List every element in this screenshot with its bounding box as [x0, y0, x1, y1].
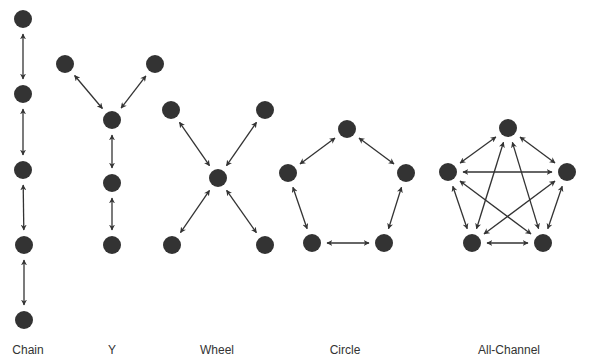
network-node — [499, 119, 517, 137]
network-node — [558, 163, 576, 181]
network-node — [303, 234, 321, 252]
network-node — [14, 161, 32, 179]
network-node — [103, 174, 121, 192]
all-channel-network — [439, 119, 576, 252]
two-way-arrow — [23, 185, 24, 230]
network-node — [103, 236, 121, 254]
two-way-arrow — [477, 142, 504, 228]
two-way-arrow — [293, 187, 307, 229]
chain-network — [14, 10, 33, 329]
network-node — [256, 101, 274, 119]
network-node — [279, 164, 297, 182]
network-node — [146, 55, 164, 73]
chain-label: Chain — [12, 343, 43, 357]
network-node — [534, 234, 552, 252]
two-way-arrow — [548, 186, 562, 229]
y-network — [56, 55, 164, 254]
network-node — [463, 234, 481, 252]
wheel-network — [162, 101, 274, 254]
two-way-arrow — [227, 122, 257, 165]
network-node — [338, 120, 356, 138]
circle-label: Circle — [330, 343, 361, 357]
two-way-arrow — [300, 138, 335, 164]
two-way-arrow — [389, 187, 402, 228]
network-node — [256, 236, 274, 254]
y-label: Y — [108, 343, 116, 357]
network-node — [375, 234, 393, 252]
circle-network — [279, 120, 415, 252]
two-way-arrow — [520, 137, 555, 163]
network-node — [14, 10, 32, 28]
network-node — [56, 55, 74, 73]
two-way-arrow — [460, 137, 496, 163]
communication-networks-diagram — [0, 0, 589, 364]
network-node — [103, 111, 121, 129]
two-way-arrow — [453, 186, 467, 229]
all-channel-label: All-Channel — [478, 343, 540, 357]
network-node — [163, 236, 181, 254]
network-node — [397, 164, 415, 182]
two-way-arrow — [359, 138, 394, 164]
two-way-arrow — [180, 122, 210, 165]
network-node — [439, 163, 457, 181]
network-node — [209, 169, 227, 187]
two-way-arrow — [227, 190, 257, 232]
network-node — [14, 85, 32, 103]
wheel-label: Wheel — [200, 343, 234, 357]
two-way-arrow — [121, 76, 146, 108]
network-node — [162, 101, 180, 119]
two-way-arrow — [181, 190, 210, 232]
two-way-arrow — [512, 142, 538, 228]
network-node — [15, 236, 33, 254]
two-way-arrow — [75, 76, 103, 109]
network-node — [15, 311, 33, 329]
